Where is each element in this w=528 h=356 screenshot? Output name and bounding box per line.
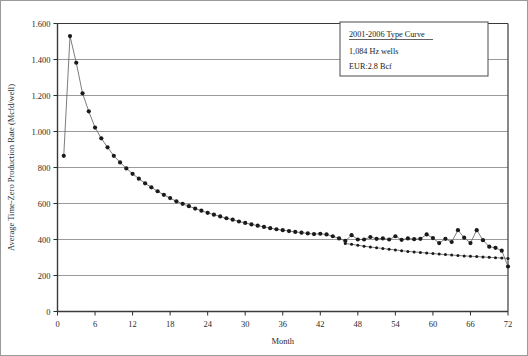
- y-tick-label-600: 600: [38, 199, 51, 209]
- data-point: [462, 236, 466, 240]
- data-point: [481, 238, 485, 242]
- data-point: [356, 237, 360, 241]
- data-point: [168, 196, 172, 200]
- data-point: [500, 257, 503, 260]
- data-point: [469, 255, 472, 258]
- data-point: [193, 206, 197, 210]
- data-point: [312, 232, 316, 236]
- x-tick-label-24: 24: [203, 319, 212, 329]
- x-tick-label-36: 36: [279, 319, 288, 329]
- data-point: [481, 255, 484, 258]
- series-1: [344, 242, 510, 260]
- data-point: [262, 225, 266, 229]
- data-point: [162, 193, 166, 197]
- data-point: [187, 204, 191, 208]
- data-point: [212, 213, 216, 217]
- data-point: [456, 228, 460, 232]
- data-point: [299, 231, 303, 235]
- data-point: [331, 234, 335, 238]
- data-point: [393, 234, 397, 238]
- data-point: [93, 125, 97, 129]
- data-point: [425, 232, 429, 236]
- data-point: [306, 231, 310, 235]
- legend-title: 2001-2006 Type Curve: [349, 30, 425, 39]
- data-point: [268, 226, 272, 230]
- data-point: [369, 246, 372, 249]
- data-point: [413, 250, 416, 253]
- x-tick-label-66: 66: [466, 319, 475, 329]
- y-axis-title: Average Time-Zero Production Rate (Mcfd/…: [6, 84, 16, 251]
- data-point: [149, 185, 153, 189]
- x-tick-label-30: 30: [241, 319, 250, 329]
- data-point: [362, 237, 366, 241]
- data-point: [488, 256, 491, 259]
- data-point: [368, 235, 372, 239]
- x-tick-label-18: 18: [166, 319, 175, 329]
- data-point: [388, 248, 391, 251]
- production-decline-chart: 02004006008001.0001.2001.4001.6000612182…: [0, 0, 528, 356]
- data-point: [418, 237, 422, 241]
- data-point: [400, 238, 404, 242]
- data-point: [506, 264, 510, 268]
- data-point: [156, 189, 160, 193]
- data-point: [375, 246, 378, 249]
- data-point: [363, 245, 366, 248]
- data-point: [450, 240, 454, 244]
- data-point: [87, 109, 91, 113]
- data-point: [137, 177, 141, 181]
- data-point: [62, 154, 66, 158]
- y-tick-label-200: 200: [38, 271, 51, 281]
- data-point: [350, 243, 353, 246]
- data-point: [130, 172, 134, 176]
- data-point: [375, 237, 379, 241]
- data-point: [293, 230, 297, 234]
- data-point: [218, 214, 222, 218]
- data-point: [381, 236, 385, 240]
- data-point: [206, 211, 210, 215]
- data-point: [124, 166, 128, 170]
- y-tick-label-400: 400: [38, 235, 51, 245]
- data-point: [118, 160, 122, 164]
- data-point: [243, 221, 247, 225]
- data-point: [318, 232, 322, 236]
- x-tick-label-48: 48: [354, 319, 363, 329]
- data-point: [406, 236, 410, 240]
- data-point: [287, 229, 291, 233]
- data-point: [281, 228, 285, 232]
- data-point: [475, 228, 479, 232]
- data-point: [400, 249, 403, 252]
- data-point: [349, 233, 353, 237]
- data-point: [381, 247, 384, 250]
- data-point: [438, 253, 441, 256]
- data-point: [337, 236, 341, 240]
- y-tick-label-1400: 1.400: [31, 55, 50, 65]
- data-point: [507, 257, 510, 260]
- data-point: [181, 202, 185, 206]
- data-point: [174, 199, 178, 203]
- y-tick-label-0: 0: [46, 307, 50, 317]
- data-point: [425, 252, 428, 255]
- data-point: [324, 232, 328, 236]
- y-tick-label-1000: 1.000: [31, 127, 50, 137]
- data-point: [356, 244, 359, 247]
- data-point: [500, 249, 504, 253]
- data-point: [487, 245, 491, 249]
- data-point: [80, 91, 84, 95]
- data-point: [274, 227, 278, 231]
- x-tick-label-42: 42: [316, 319, 325, 329]
- data-point: [249, 222, 253, 226]
- data-point: [237, 219, 241, 223]
- data-point: [412, 237, 416, 241]
- x-tick-label-0: 0: [55, 319, 59, 329]
- x-tick-label-12: 12: [128, 319, 137, 329]
- data-point: [394, 248, 397, 251]
- data-point: [68, 34, 72, 38]
- data-point: [463, 254, 466, 257]
- y-tick-label-1200: 1.200: [31, 91, 50, 101]
- data-point: [444, 253, 447, 256]
- x-tick-label-72: 72: [504, 319, 513, 329]
- chart-figure: 02004006008001.0001.2001.4001.6000612182…: [0, 0, 528, 356]
- data-point: [105, 145, 109, 149]
- data-point: [99, 136, 103, 140]
- legend-line-1: EUR:2.8 Bcf: [349, 62, 392, 71]
